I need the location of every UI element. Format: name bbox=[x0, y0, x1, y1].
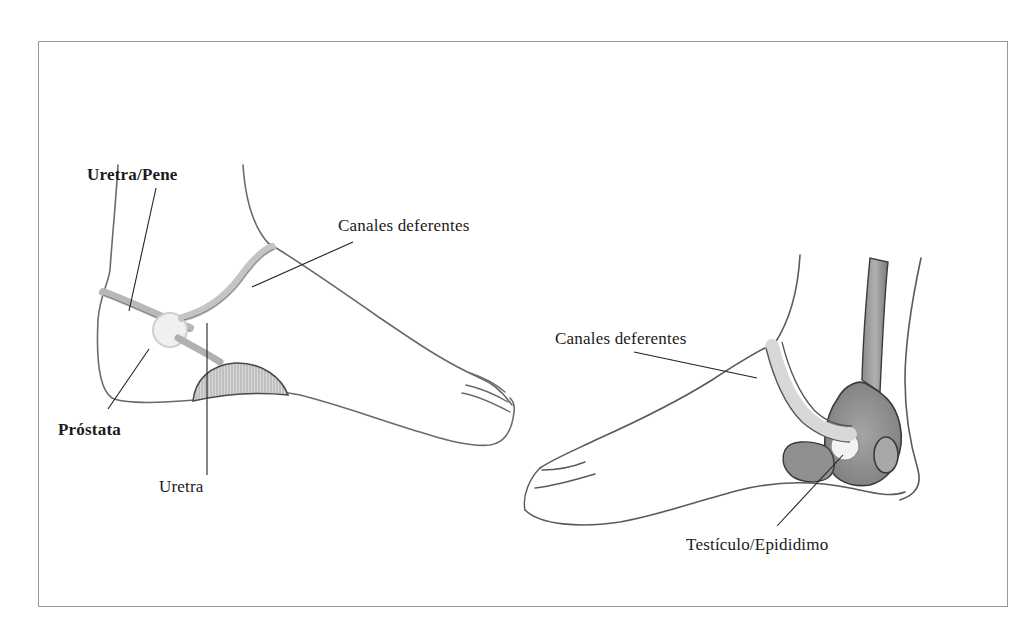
right-foot-shin-outline bbox=[775, 255, 800, 343]
leader-prostate bbox=[108, 349, 149, 409]
left-foot-dorsum-outline bbox=[268, 243, 512, 405]
right-foot-zones bbox=[766, 258, 901, 486]
right-foot-dorsum-outline bbox=[540, 343, 775, 468]
right-foot-leader-lines bbox=[634, 352, 843, 526]
right-foot-achilles-outline bbox=[900, 258, 921, 500]
left-foot-zones bbox=[103, 247, 288, 401]
left-foot-leader-lines bbox=[108, 188, 353, 475]
label-vas-deferens-left: Canales deferentes bbox=[338, 217, 470, 234]
right-foot-toes bbox=[524, 462, 595, 510]
label-vas-deferens-right: Canales deferentes bbox=[555, 330, 687, 347]
label-urethra-penis: Uretra/Pene bbox=[87, 166, 178, 183]
epididymis-blob bbox=[783, 442, 834, 482]
label-urethra: Uretra bbox=[159, 478, 204, 495]
label-testicle-epididymis: Testículo/Epididimo bbox=[686, 536, 828, 553]
left-foot-sole-outline bbox=[195, 391, 514, 445]
label-prostate: Próstata bbox=[58, 421, 121, 438]
left-foot-toes bbox=[462, 373, 510, 412]
small-oval-zone bbox=[874, 437, 898, 473]
right-foot-sole-outline bbox=[525, 483, 905, 525]
left-foot-drawing bbox=[98, 165, 515, 445]
leader-urethra-penis bbox=[129, 188, 156, 311]
reflexology-illustration bbox=[0, 0, 1026, 640]
vertical-band bbox=[862, 258, 888, 392]
leader-vas-deferens-right bbox=[634, 352, 757, 378]
left-foot-shin-outline bbox=[243, 165, 268, 243]
urethra-band bbox=[178, 338, 220, 362]
left-foot-heel-outline bbox=[98, 165, 195, 402]
vas-deferens-band-left bbox=[182, 247, 272, 318]
